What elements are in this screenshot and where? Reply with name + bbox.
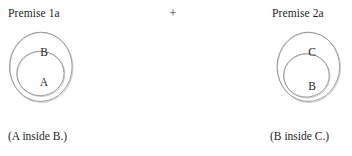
set-label-inner-right: B — [304, 80, 320, 93]
premise-2a-diagram: C B — [266, 30, 346, 108]
premise-2a-caption: (B inside C.) — [270, 129, 329, 143]
premise-2a-svg — [266, 30, 346, 108]
plus-icon: + — [166, 5, 180, 21]
premise-1a-svg — [6, 30, 86, 108]
premise-1a-caption: (A inside B.) — [8, 129, 67, 143]
premise-2a-heading: Premise 2a — [272, 6, 324, 20]
set-label-inner-left: A — [36, 76, 52, 89]
euler-diagram-figure: Premise 1a + Premise 2a B A C B (A insid… — [0, 0, 352, 156]
premise-1a-diagram: B A — [6, 30, 86, 108]
premise-1a-heading: Premise 1a — [8, 6, 60, 20]
set-label-outer-right: C — [304, 46, 320, 59]
set-label-outer-left: B — [36, 46, 52, 59]
